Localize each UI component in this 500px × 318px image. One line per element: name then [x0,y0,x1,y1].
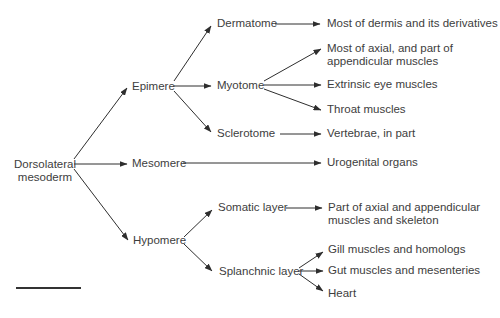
arrow-root-epimere [74,88,127,159]
derivative-vertebrae: Vertebrae, in part [327,127,415,140]
derivative-gut-muscles: Gut muscles and mesenteries [328,264,480,277]
arrow-epimere-sclerotome [174,91,211,132]
node-hypomere: Hypomere [133,234,186,247]
derivative-gill-muscles: Gill muscles and homologs [328,243,465,256]
root-node-dorsolateral-mesoderm: Dorsolateral mesoderm [14,158,76,184]
arrow-epimere-dermatome [174,26,211,81]
root-label-line2: mesoderm [14,171,76,184]
derivative-axial-appendicular-muscles: Most of axial, and part of appendicular … [327,42,453,68]
derivative-extrinsic-eye-muscles: Extrinsic eye muscles [327,78,438,91]
arrow-hypomere-splanchnic [184,244,212,271]
derivative-somatic-line1: Part of axial and appendicular [328,201,480,214]
arrow-myotome-throat [264,89,321,110]
derivative-urogenital-organs: Urogenital organs [327,156,418,169]
arrow-hypomere-somatic [184,210,212,237]
node-splanchnic-layer: Splanchnic layer [219,265,303,278]
arrow-root-hypomere [74,169,128,240]
derivative-dermis: Most of dermis and its derivatives [327,17,498,30]
derivative-somatic-line2: muscles and skeleton [328,214,480,227]
arrow-myotome-axial [264,49,321,81]
node-somatic-layer: Somatic layer [218,201,288,214]
node-dermatome: Dermatome [217,17,277,30]
footnote-rule [16,287,81,289]
root-label-line1: Dorsolateral [14,158,76,171]
node-myotome: Myotome [217,79,264,92]
node-mesomere: Mesomere [132,157,186,170]
derivative-heart: Heart [328,287,356,300]
node-sclerotome: Sclerotome [217,127,275,140]
derivative-axial-line1: Most of axial, and part of [327,42,453,55]
derivative-throat-muscles: Throat muscles [327,103,406,116]
node-epimere: Epimere [132,80,175,93]
derivative-axial-appendicular-skeleton: Part of axial and appendicular muscles a… [328,201,480,227]
derivative-axial-line2: appendicular muscles [327,55,453,68]
